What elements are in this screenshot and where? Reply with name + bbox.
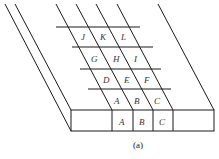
cell-label: A — [113, 96, 120, 106]
layered-slab-diagram: J K L G H I D E F A B C A B C (a) — [0, 0, 219, 159]
cell-label: H — [112, 54, 120, 64]
cell-label: L — [120, 32, 126, 42]
front-cell-label: C — [159, 117, 166, 127]
cell-label: F — [143, 75, 150, 85]
cell-label: C — [154, 96, 161, 106]
slab-left-inner-edge — [15, 4, 71, 110]
slab-left-outer-edge — [5, 4, 71, 131]
cell-label: D — [102, 75, 110, 85]
figure-caption: (a) — [133, 140, 143, 150]
cell-label: K — [99, 32, 107, 42]
cell-label: J — [81, 32, 86, 42]
cell-label: I — [133, 54, 138, 64]
cell-label: B — [134, 96, 140, 106]
cell-label: E — [123, 75, 130, 85]
cell-label: G — [91, 54, 98, 64]
front-cell-label: B — [139, 117, 145, 127]
slab-right-edge — [158, 4, 214, 110]
front-cell-label: A — [118, 117, 125, 127]
